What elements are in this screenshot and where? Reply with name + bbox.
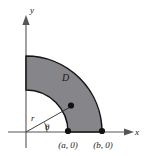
x-axis-label: x xyxy=(134,127,139,137)
point-b-dot xyxy=(99,128,105,134)
point-a-dot xyxy=(65,128,71,134)
radius-label-r: r xyxy=(31,113,35,123)
angle-label-theta: θ xyxy=(45,122,50,132)
point-b-label: (b, 0) xyxy=(93,140,113,150)
region-label-d: D xyxy=(61,72,70,83)
x-axis-arrowhead xyxy=(124,128,134,135)
figure-canvas: y x D r θ (a, 0) (b, 0) xyxy=(0,0,147,156)
polar-region-figure: y x D r θ (a, 0) (b, 0) xyxy=(0,0,147,156)
region-d-shape xyxy=(26,56,102,132)
y-axis-arrowhead xyxy=(22,15,29,25)
point-a-label: (a, 0) xyxy=(58,140,78,150)
inner-arc-point-dot xyxy=(68,102,74,108)
y-axis-label: y xyxy=(29,5,34,15)
